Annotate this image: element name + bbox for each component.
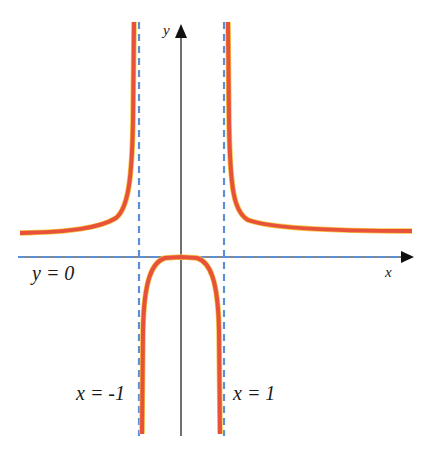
right-branch bbox=[228, 22, 412, 231]
x-axis-label: x bbox=[385, 264, 392, 281]
y-axis-arrow-icon bbox=[175, 24, 187, 38]
right-branch-edge bbox=[228, 22, 412, 231]
left-branch-edge bbox=[20, 22, 134, 233]
left-branch bbox=[20, 22, 134, 233]
y-axis-label: y bbox=[163, 22, 170, 39]
horizontal-asymptote-label: y = 0 bbox=[32, 262, 74, 285]
x-axis-arrow-icon bbox=[401, 251, 414, 263]
left-asymptote-label: x = -1 bbox=[76, 382, 125, 405]
right-asymptote-label: x = 1 bbox=[233, 382, 275, 405]
graph-canvas bbox=[0, 0, 431, 454]
